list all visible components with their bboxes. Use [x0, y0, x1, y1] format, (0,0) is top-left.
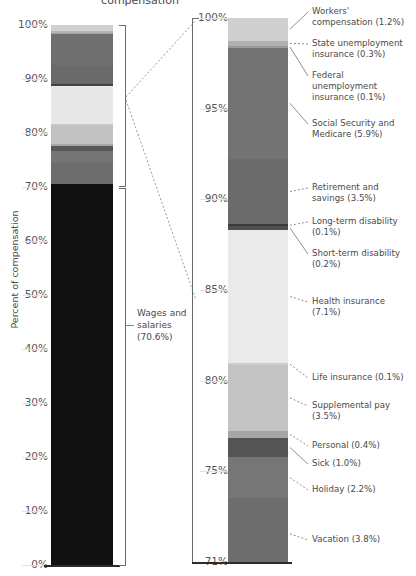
compensation-stacked-bar-figure: compensation Percent of compensation 100…	[0, 0, 416, 576]
callout-leader-line	[290, 398, 308, 406]
detail-leader-group	[0, 0, 416, 576]
callout-leader-line	[290, 297, 308, 302]
callout-leader-line	[290, 188, 308, 192]
callout-leader-line	[290, 103, 308, 124]
callout-leader-line	[290, 228, 308, 254]
callout-leader-line	[290, 364, 308, 378]
callout-leader-line	[290, 43, 308, 44]
callout-leader-line	[290, 47, 308, 76]
callout-leader-line	[290, 448, 308, 464]
callout-leader-line	[290, 434, 308, 446]
callout-leader-line	[290, 534, 308, 540]
callout-leader-line	[290, 478, 308, 490]
callout-leader-line	[290, 222, 308, 225]
callout-leader-line	[290, 12, 308, 29]
